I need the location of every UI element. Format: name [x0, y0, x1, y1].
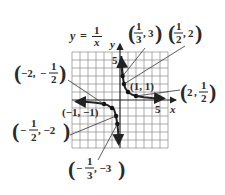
hyperbola-graph: 5 5 x y y = 1 x ( 1 3 , 3 ) ( 1 2 , 2 ) … — [0, 0, 225, 195]
svg-text:2: 2 — [176, 33, 182, 45]
svg-text:): ) — [59, 60, 66, 85]
svg-text:1: 1 — [94, 24, 100, 36]
point-label-neg1-3-neg3: ( − 1 3 , −3 ) — [68, 155, 125, 181]
svg-text:,: , — [194, 86, 197, 98]
svg-text:1: 1 — [51, 60, 57, 72]
svg-text:, −3: , −3 — [94, 162, 112, 174]
svg-text:1: 1 — [176, 20, 182, 32]
svg-text:1: 1 — [87, 155, 93, 167]
y-tick-label-5: 5 — [112, 54, 118, 66]
svg-text:): ) — [63, 118, 70, 143]
point-label-2-1-2: ( 2 , 1 2 ) — [180, 79, 216, 104]
svg-text:, −2: , −2 — [38, 124, 56, 136]
svg-text:): ) — [155, 20, 162, 45]
svg-text:1: 1 — [201, 79, 207, 91]
svg-text:(: ( — [12, 118, 19, 143]
svg-text:1: 1 — [136, 20, 142, 32]
svg-text:1: 1 — [31, 117, 37, 129]
y-axis-label: y — [108, 38, 115, 50]
svg-text:(: ( — [68, 156, 75, 181]
point-neg1-neg1 — [110, 106, 114, 110]
point-label-neg1-2-neg2: ( − 1 2 , −2 ) — [12, 117, 70, 143]
svg-text:2: 2 — [31, 131, 37, 143]
svg-text:3: 3 — [136, 33, 142, 45]
svg-text:=: = — [80, 29, 87, 43]
svg-text:,: , — [183, 27, 186, 39]
svg-text:,: , — [143, 27, 146, 39]
point-label-neg2-neg1-2: ( −2, − 1 2 ) — [14, 60, 66, 85]
svg-text:): ) — [118, 156, 125, 181]
svg-text:): ) — [195, 20, 202, 45]
svg-text:−: − — [40, 67, 46, 79]
point-label-1-3-3: ( 1 3 , 3 ) — [128, 20, 162, 45]
svg-text:−: − — [20, 124, 26, 136]
svg-text:−2,: −2, — [21, 67, 36, 79]
x-tick-label-5: 5 — [155, 103, 161, 115]
svg-text:2: 2 — [187, 86, 193, 98]
svg-text:y: y — [68, 29, 76, 43]
leader-lines — [68, 46, 185, 160]
svg-text:2: 2 — [188, 27, 194, 39]
x-axis-label: x — [169, 103, 176, 115]
svg-text:3: 3 — [148, 27, 154, 39]
curve-branch-positive-start — [121, 58, 122, 76]
svg-text:x: x — [93, 36, 100, 48]
svg-text:2: 2 — [201, 92, 207, 104]
equation-label: y = 1 x — [68, 24, 102, 48]
svg-text:−: − — [76, 162, 82, 174]
point-label-1-1: (1, 1) — [130, 80, 154, 93]
svg-text:2: 2 — [51, 73, 57, 85]
point-label-1-2-2: ( 1 2 , 2 ) — [168, 20, 202, 45]
svg-text:): ) — [209, 79, 216, 104]
svg-text:3: 3 — [87, 169, 93, 181]
